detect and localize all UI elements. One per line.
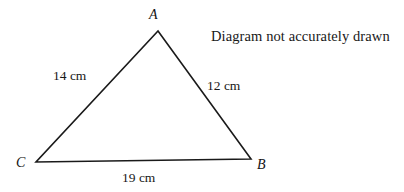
diagram-note: Diagram not accurately drawn bbox=[211, 29, 390, 44]
triangle-outline bbox=[36, 31, 251, 162]
vertex-label-a: A bbox=[149, 8, 158, 22]
side-length-label-ca: 14 cm bbox=[53, 69, 86, 83]
side-length-label-cb: 19 cm bbox=[122, 171, 155, 185]
triangle-diagram: A B C 14 cm 12 cm 19 cm Diagram not accu… bbox=[0, 0, 404, 192]
side-length-label-ab: 12 cm bbox=[207, 79, 240, 93]
vertex-label-c: C bbox=[16, 156, 25, 170]
vertex-label-b: B bbox=[257, 158, 266, 172]
